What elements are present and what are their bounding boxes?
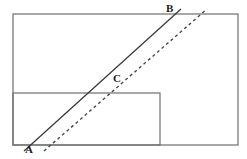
solid-transversal-line xyxy=(24,9,181,151)
vertex-label-a: A xyxy=(25,144,33,155)
inner-rectangle xyxy=(13,93,160,145)
vertex-label-b: B xyxy=(166,3,173,14)
vertex-label-c: C xyxy=(113,73,121,84)
geometry-diagram xyxy=(0,0,247,159)
figure-canvas: A B C xyxy=(0,0,247,159)
dashed-transversal-line xyxy=(44,9,207,151)
